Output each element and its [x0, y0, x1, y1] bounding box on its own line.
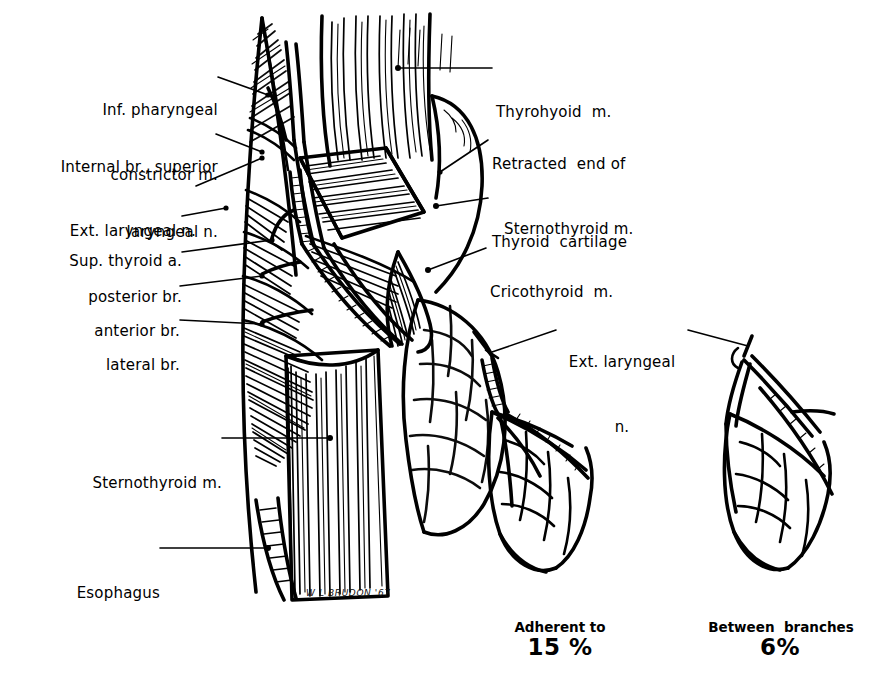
label-line: Ext. laryngeal	[556, 352, 688, 374]
thyrohyoid-muscle	[321, 14, 452, 166]
leader-lines-right	[395, 65, 492, 273]
percent-adherent: 15 %	[470, 634, 650, 660]
inset-nerve-between	[726, 362, 750, 512]
sternothyroid-muscle	[286, 350, 388, 600]
caption-between-branches: Between branches of Superior thyroid A	[676, 576, 886, 679]
label-line: Sternothyroid m.	[44, 473, 222, 495]
label-inset-ext-laryngeal-n: Ext. laryngeal n.	[556, 308, 688, 482]
label-lateral-br: lateral br.	[52, 311, 180, 420]
label-line: lateral br.	[52, 355, 180, 377]
label-line: Esophagus	[40, 583, 160, 605]
label-esophagus: Esophagus	[40, 539, 160, 648]
label-line: Cricothyroid m.	[490, 282, 740, 304]
percent-between-branches: 6%	[690, 634, 870, 660]
label-line: Retracted end of	[492, 154, 742, 176]
artist-signature: W L BRUDON '67	[306, 588, 391, 598]
label-line: Internal br., superior	[6, 157, 218, 179]
label-line: n.	[556, 417, 688, 439]
inferior-constrictor-sheet	[243, 320, 322, 466]
figure-canvas: Inf. pharyngeal constrictor m. Internal …	[0, 0, 896, 679]
thyroid-cartilage-shape	[432, 96, 482, 292]
label-sternothyroid-m: Sternothyroid m.	[44, 429, 222, 538]
main-dissection	[243, 14, 505, 600]
inset-gland-between	[724, 414, 830, 570]
caption-adherent: Adherent to Superior thyroid A.	[460, 576, 660, 679]
inset-between-branches	[724, 336, 834, 570]
